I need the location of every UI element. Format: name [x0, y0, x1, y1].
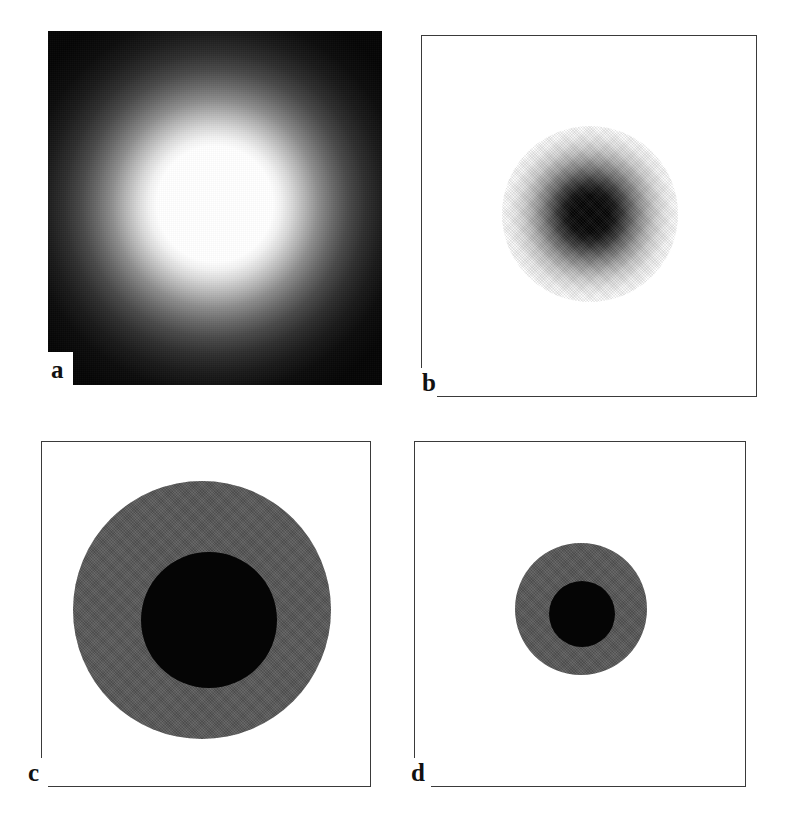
- figure-panel-grid: a b c d: [0, 0, 789, 833]
- gaussian-psf-bright: [48, 31, 382, 385]
- panel-d-image: [414, 441, 746, 787]
- quantized-black-core-d: [549, 581, 615, 647]
- panel-label-d: d: [411, 760, 425, 785]
- panel-label-c: c: [28, 760, 39, 785]
- gaussian-psf-inverted: [502, 126, 678, 302]
- panel-a-image: [48, 31, 382, 385]
- halftone-dither-overlay: [502, 126, 678, 302]
- panel-b-image: [421, 35, 757, 397]
- panel-label-a: a: [51, 357, 64, 382]
- panel-label-b: b: [422, 370, 436, 395]
- quantized-black-core-c: [141, 552, 277, 688]
- panel-c-image: [41, 441, 371, 787]
